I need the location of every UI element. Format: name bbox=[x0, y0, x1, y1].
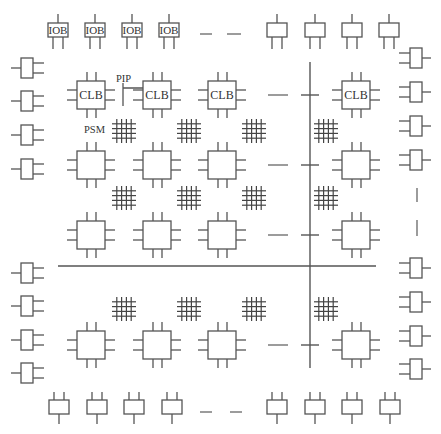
iob-right bbox=[399, 326, 431, 346]
iob-box bbox=[162, 400, 182, 414]
psm-switch-matrix bbox=[314, 186, 338, 210]
clb-box bbox=[77, 331, 105, 359]
psm-switch-matrix bbox=[177, 119, 201, 143]
iob-box bbox=[410, 326, 422, 346]
iob-box bbox=[21, 159, 33, 179]
iob-right bbox=[399, 150, 431, 170]
iob-top: IOB bbox=[48, 14, 68, 49]
iob-box bbox=[410, 292, 422, 312]
clb-box bbox=[208, 151, 236, 179]
clb-box bbox=[342, 221, 370, 249]
clb-label: CLB bbox=[145, 88, 168, 102]
clb-block bbox=[332, 322, 380, 368]
clb-label: CLB bbox=[344, 88, 367, 102]
iob-right bbox=[399, 48, 431, 68]
iob-label: IOB bbox=[160, 24, 179, 36]
iob-box bbox=[49, 400, 69, 414]
iob-top bbox=[379, 14, 399, 49]
iob-right bbox=[399, 258, 431, 278]
clb-block bbox=[67, 212, 115, 258]
psm-switch-matrix bbox=[242, 119, 266, 143]
clb-array: CLBCLBCLBCLB bbox=[67, 72, 380, 368]
clb-box bbox=[77, 221, 105, 249]
iob-bottom bbox=[305, 392, 325, 424]
iob-top: IOB bbox=[159, 14, 179, 49]
iob-box bbox=[21, 263, 33, 283]
iob-box bbox=[342, 23, 362, 37]
iob-bottom bbox=[380, 392, 400, 424]
iob-box bbox=[410, 258, 422, 278]
clb-label: CLB bbox=[79, 88, 102, 102]
iob-box bbox=[267, 23, 287, 37]
iob-box bbox=[410, 150, 422, 170]
clb-block bbox=[67, 142, 115, 188]
clb-block bbox=[198, 322, 246, 368]
iob-right bbox=[399, 292, 431, 312]
iob-box bbox=[379, 23, 399, 37]
iob-top bbox=[342, 14, 362, 49]
psm-switch-matrix bbox=[112, 186, 136, 210]
clb-block bbox=[133, 142, 181, 188]
psm-label: PSM bbox=[84, 124, 106, 135]
psm-grid bbox=[112, 119, 338, 321]
iob-box bbox=[21, 296, 33, 316]
iob-label: IOB bbox=[49, 24, 68, 36]
fpga-architecture-diagram: IOBIOBIOBIOB CLBCLBCLBCLB PIP PSM bbox=[0, 0, 441, 434]
clb-box bbox=[342, 151, 370, 179]
iob-box bbox=[87, 400, 107, 414]
iob-box bbox=[305, 23, 325, 37]
iob-left bbox=[11, 330, 44, 350]
pip-label: PIP bbox=[116, 73, 131, 84]
iob-left bbox=[11, 363, 44, 383]
clb-box bbox=[208, 331, 236, 359]
iob-box bbox=[410, 116, 422, 136]
clb-block bbox=[67, 322, 115, 368]
iob-left bbox=[11, 263, 44, 283]
iob-right bbox=[399, 359, 431, 379]
clb-block bbox=[198, 142, 246, 188]
psm-switch-matrix bbox=[112, 119, 136, 143]
psm-switch-matrix bbox=[314, 119, 338, 143]
right-iob-column bbox=[399, 48, 431, 379]
iob-box bbox=[21, 125, 33, 145]
clb-block: CLB bbox=[133, 72, 181, 118]
clb-block bbox=[332, 212, 380, 258]
psm-switch-matrix bbox=[177, 186, 201, 210]
iob-box bbox=[21, 91, 33, 111]
iob-left bbox=[11, 159, 44, 179]
clb-block: CLB bbox=[332, 72, 380, 118]
iob-top: IOB bbox=[122, 14, 142, 49]
iob-left bbox=[11, 296, 44, 316]
clb-block bbox=[133, 322, 181, 368]
iob-top: IOB bbox=[85, 14, 105, 49]
iob-box bbox=[21, 330, 33, 350]
clb-box bbox=[143, 221, 171, 249]
psm-switch-matrix bbox=[314, 297, 338, 321]
clb-box bbox=[143, 151, 171, 179]
iob-box bbox=[305, 400, 325, 414]
iob-box bbox=[410, 82, 422, 102]
clb-block bbox=[198, 212, 246, 258]
iob-box bbox=[410, 359, 422, 379]
iob-box bbox=[21, 363, 33, 383]
iob-label: IOB bbox=[123, 24, 142, 36]
clb-label: CLB bbox=[210, 88, 233, 102]
iob-box bbox=[342, 400, 362, 414]
clb-block bbox=[332, 142, 380, 188]
iob-box bbox=[124, 400, 144, 414]
psm-switch-matrix bbox=[177, 297, 201, 321]
clb-box bbox=[77, 151, 105, 179]
bottom-iob-row bbox=[49, 392, 400, 424]
iob-right bbox=[399, 116, 431, 136]
top-iob-row: IOBIOBIOBIOB bbox=[48, 14, 399, 49]
iob-right bbox=[399, 82, 431, 102]
left-iob-column bbox=[11, 58, 44, 383]
iob-bottom bbox=[87, 392, 107, 424]
iob-label: IOB bbox=[86, 24, 105, 36]
iob-box bbox=[410, 48, 422, 68]
clb-block: CLB bbox=[198, 72, 246, 118]
iob-box bbox=[380, 400, 400, 414]
iob-bottom bbox=[342, 392, 362, 424]
iob-bottom bbox=[124, 392, 144, 424]
iob-left bbox=[11, 91, 44, 111]
